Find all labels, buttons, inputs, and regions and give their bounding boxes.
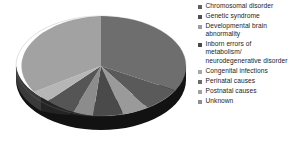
legend-item-developmental-brain-abnormality[interactable]: Developmental brain abnormality: [198, 22, 307, 38]
legend-label: Inborn errors of metabolism/ neurodegene…: [206, 40, 288, 64]
legend-item-inborn-errors-of-metabolism[interactable]: Inborn errors of metabolism/ neurodegene…: [198, 40, 307, 64]
legend-swatch-icon: [198, 100, 202, 104]
legend-item-chromosomal-disorder[interactable]: Chromosomal disorder: [198, 2, 307, 10]
legend-label: Congenital infections: [206, 67, 268, 75]
legend-label: Perinatal causes: [206, 77, 256, 85]
legend-label: Genetic syndrome: [206, 12, 260, 20]
legend-label: Unknown: [206, 97, 234, 105]
chart-legend: Chromosomal disorder Genetic syndrome De…: [198, 2, 307, 141]
legend-item-perinatal-causes[interactable]: Perinatal causes: [198, 77, 307, 85]
legend-label: Postnatal causes: [206, 87, 257, 95]
legend-item-postnatal-causes[interactable]: Postnatal causes: [198, 87, 307, 95]
legend-label: Chromosomal disorder: [206, 2, 274, 10]
pie-chart-figure: Chromosomal disorder Genetic syndrome De…: [0, 0, 307, 143]
legend-swatch-icon: [198, 43, 202, 47]
pie-chart-svg: [0, 0, 195, 143]
legend-item-genetic-syndrome[interactable]: Genetic syndrome: [198, 12, 307, 20]
legend-swatch-icon: [198, 5, 202, 9]
legend-item-congenital-infections[interactable]: Congenital infections: [198, 67, 307, 75]
legend-item-unknown[interactable]: Unknown: [198, 97, 307, 105]
legend-label: Developmental brain abnormality: [206, 22, 267, 38]
legend-swatch-icon: [198, 15, 202, 19]
pie-chart-plot-area: [0, 0, 195, 143]
legend-swatch-icon: [198, 80, 202, 84]
legend-swatch-icon: [198, 25, 202, 29]
legend-swatch-icon: [198, 70, 202, 74]
legend-swatch-icon: [198, 90, 202, 94]
